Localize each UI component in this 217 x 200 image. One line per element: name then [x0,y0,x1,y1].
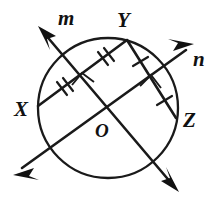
line-n [22,50,186,168]
label-point-z: Z [182,108,196,132]
circle-geometry-diagram: X Y Z O m n [0,0,217,200]
label-point-x: X [13,97,29,121]
line-m-arrow-end-icon [161,167,179,192]
tick-marks-yz-upper [133,57,148,66]
line-n-arrow-start-icon [13,168,39,180]
line-n-arrow-end-icon [168,39,194,51]
line-m-arrow-start-icon [38,26,56,50]
label-line-n: n [193,47,205,71]
label-point-y: Y [117,8,132,32]
label-line-m: m [58,6,74,30]
geometry-figure: X Y Z O m n [0,0,217,200]
label-center-o: O [95,120,109,141]
